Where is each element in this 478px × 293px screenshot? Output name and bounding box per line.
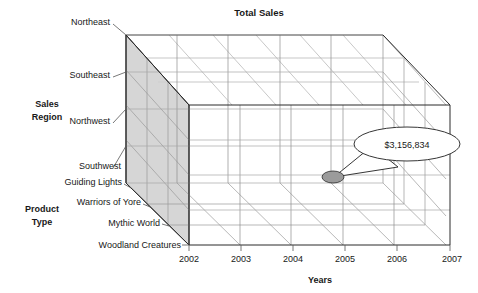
callout-value-label: $3,156,834	[384, 140, 429, 150]
sales-3d-chart: $3,156,834 Total Sales 2002 2003 2004 20…	[0, 0, 478, 293]
depth-tick-label: Southeast	[69, 70, 110, 80]
depth-tick-label: Southwest	[79, 161, 122, 171]
callout-annotation[interactable]: $3,156,834	[334, 127, 460, 177]
svg-text:Type: Type	[32, 217, 52, 227]
depth-axis-title: Sales Region	[32, 99, 63, 122]
depth-axis-tick-labels: Northeast Southeast Northwest Southwest	[69, 17, 121, 171]
svg-text:Product: Product	[25, 204, 59, 214]
product-tick-label: Mythic World	[108, 218, 160, 228]
depth-axis-ticks	[113, 24, 126, 168]
ceiling-grid	[142, 35, 419, 105]
product-tick-label: Warriors of Yore	[77, 197, 141, 207]
x-axis-tick-labels: 2002 2003 2004 2005 2006 2007	[179, 254, 462, 264]
x-tick-label: 2006	[387, 254, 407, 264]
x-axis-title: Years	[308, 275, 332, 285]
x-tick-label: 2003	[231, 254, 251, 264]
chart-title: Total Sales	[234, 7, 283, 18]
product-axis-title: Product Type	[25, 204, 59, 227]
data-point-marker[interactable]	[322, 171, 344, 183]
x-tick-label: 2004	[283, 254, 303, 264]
product-tick-label: Woodland Creatures	[99, 240, 182, 250]
chart-container: $3,156,834 Total Sales 2002 2003 2004 20…	[0, 0, 478, 293]
depth-tick-label: Northeast	[71, 17, 111, 27]
svg-text:Sales: Sales	[35, 99, 59, 109]
product-tick-label: Guiding Lights	[64, 177, 122, 187]
svg-text:Region: Region	[32, 112, 63, 122]
x-tick-label: 2007	[442, 254, 462, 264]
depth-tick-label: Northwest	[69, 116, 110, 126]
x-axis-ticks	[189, 245, 450, 251]
x-tick-label: 2005	[335, 254, 355, 264]
x-tick-label: 2002	[179, 254, 199, 264]
